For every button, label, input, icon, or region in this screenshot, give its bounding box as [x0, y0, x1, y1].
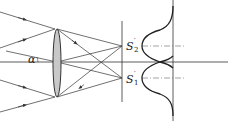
lens-resolution-diagram: α S ′ 2 S ′ 1 [0, 0, 231, 121]
svg-text:2: 2 [134, 46, 138, 54]
image-label-s1: S ′ 1 [126, 70, 138, 87]
svg-text:′: ′ [134, 70, 136, 78]
svg-text:1: 1 [134, 79, 138, 87]
converging-lens [53, 29, 61, 97]
svg-text:S: S [126, 40, 134, 53]
angle-alpha-label: α [28, 53, 36, 66]
image-label-s2: S ′ 2 [126, 37, 138, 54]
svg-text:S: S [126, 73, 134, 86]
refracted-rays [57, 29, 122, 97]
svg-text:′: ′ [134, 37, 136, 45]
